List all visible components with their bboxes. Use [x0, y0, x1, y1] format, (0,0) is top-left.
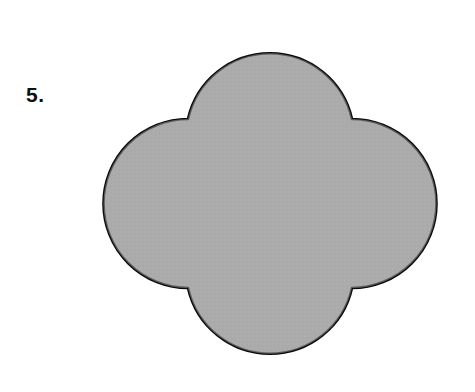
worksheet-figure: 5.	[0, 0, 475, 392]
shape-canvas	[0, 0, 475, 392]
quatrefoil-texture-overlay	[104, 53, 437, 354]
